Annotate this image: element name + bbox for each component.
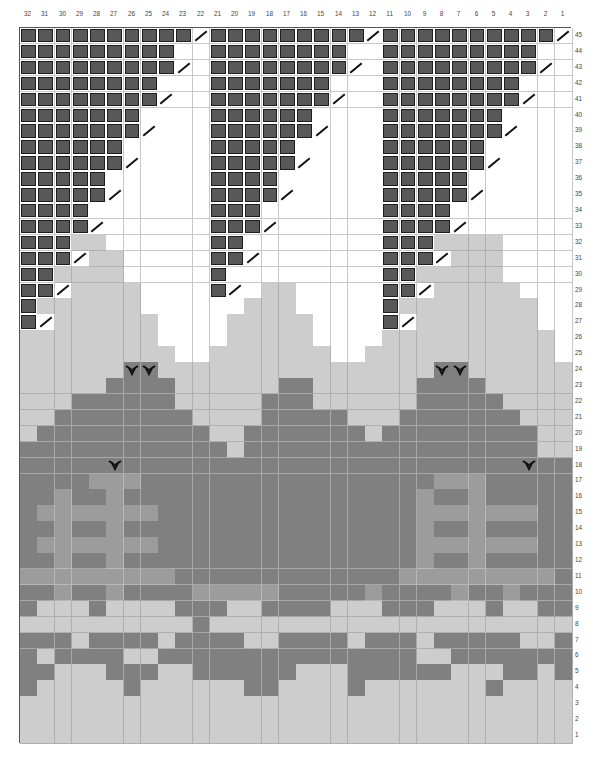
chart-cell	[175, 235, 193, 251]
chart-cell	[141, 298, 159, 314]
chart-cell	[20, 139, 38, 155]
chart-cell	[20, 553, 38, 569]
chart-cell	[520, 203, 538, 219]
chart-cell	[244, 362, 262, 378]
chart-cell	[313, 330, 331, 346]
chart-cell	[124, 505, 142, 521]
slash-cell	[55, 283, 73, 299]
chart-cell	[141, 314, 159, 330]
chart-cell	[520, 123, 538, 139]
chart-cell	[227, 28, 245, 44]
chart-cell	[348, 155, 366, 171]
chart-cell	[417, 123, 435, 139]
chart-cell	[244, 76, 262, 92]
chart-cell	[538, 664, 556, 680]
chart-cell	[382, 458, 400, 474]
chart-cell	[210, 649, 228, 665]
chart-cell	[520, 521, 538, 537]
chart-cell	[296, 108, 314, 124]
chart-cell	[193, 203, 211, 219]
chart-cell	[486, 203, 504, 219]
chart-cell	[37, 378, 55, 394]
chart-cell	[313, 203, 331, 219]
chart-cell	[175, 267, 193, 283]
chart-cell	[451, 696, 469, 712]
chart-cell	[417, 601, 435, 617]
column-number: 11	[383, 9, 397, 18]
chart-cell	[175, 394, 193, 410]
chart-cell	[417, 44, 435, 60]
chart-cell	[331, 108, 349, 124]
chart-cell	[262, 442, 280, 458]
chart-cell	[72, 601, 90, 617]
chart-cell	[417, 28, 435, 44]
chart-cell	[89, 171, 107, 187]
chart-cell	[313, 553, 331, 569]
chart-cell	[365, 394, 383, 410]
chart-cell	[451, 649, 469, 665]
chart-cell	[365, 378, 383, 394]
chart-cell	[72, 489, 90, 505]
chart-cell	[55, 235, 73, 251]
chart-cell	[262, 728, 280, 744]
chart-cell	[106, 696, 124, 712]
chart-cell	[451, 728, 469, 744]
chart-cell	[175, 219, 193, 235]
chart-cell	[20, 155, 38, 171]
chart-cell	[313, 712, 331, 728]
chart-cell	[124, 346, 142, 362]
chart-cell	[72, 362, 90, 378]
chart-cell	[37, 330, 55, 346]
chart-cell	[262, 298, 280, 314]
chart-cell	[210, 283, 228, 299]
chart-cell	[538, 219, 556, 235]
chart-cell	[244, 537, 262, 553]
chart-cell	[555, 426, 573, 442]
chart-cell	[124, 314, 142, 330]
chart-cell	[158, 267, 176, 283]
chart-cell	[313, 649, 331, 665]
chart-cell	[210, 219, 228, 235]
chart-cell	[365, 426, 383, 442]
chart-cell	[348, 410, 366, 426]
chart-cell	[382, 378, 400, 394]
chart-cell	[227, 60, 245, 76]
chart-cell	[158, 139, 176, 155]
chart-cell	[158, 649, 176, 665]
chart-cell	[538, 426, 556, 442]
chart-cell	[210, 489, 228, 505]
chart-cell	[106, 474, 124, 490]
chart-cell	[72, 60, 90, 76]
chart-cell	[503, 601, 521, 617]
chart-cell	[313, 298, 331, 314]
chart-cell	[89, 28, 107, 44]
chart-cell	[279, 410, 297, 426]
chart-cell	[141, 108, 159, 124]
chart-cell	[20, 203, 38, 219]
chart-cell	[55, 680, 73, 696]
chart-cell	[175, 664, 193, 680]
chart-cell	[106, 251, 124, 267]
chart-cell	[469, 474, 487, 490]
chart-cell	[89, 474, 107, 490]
chart-cell	[469, 362, 487, 378]
chart-cell	[469, 139, 487, 155]
chart-cell	[555, 521, 573, 537]
chart-cell	[158, 330, 176, 346]
chart-cell	[313, 346, 331, 362]
chart-cell	[72, 696, 90, 712]
chart-cell	[486, 474, 504, 490]
chart-cell	[555, 489, 573, 505]
chart-cell	[89, 314, 107, 330]
chart-cell	[520, 474, 538, 490]
chart-cell	[296, 378, 314, 394]
chart-cell	[55, 76, 73, 92]
chart-cell	[262, 187, 280, 203]
chart-cell	[262, 235, 280, 251]
chart-cell	[313, 442, 331, 458]
chart-cell	[175, 314, 193, 330]
chart-cell	[106, 92, 124, 108]
chart-cell	[244, 378, 262, 394]
chart-cell	[89, 346, 107, 362]
chart-cell	[141, 442, 159, 458]
